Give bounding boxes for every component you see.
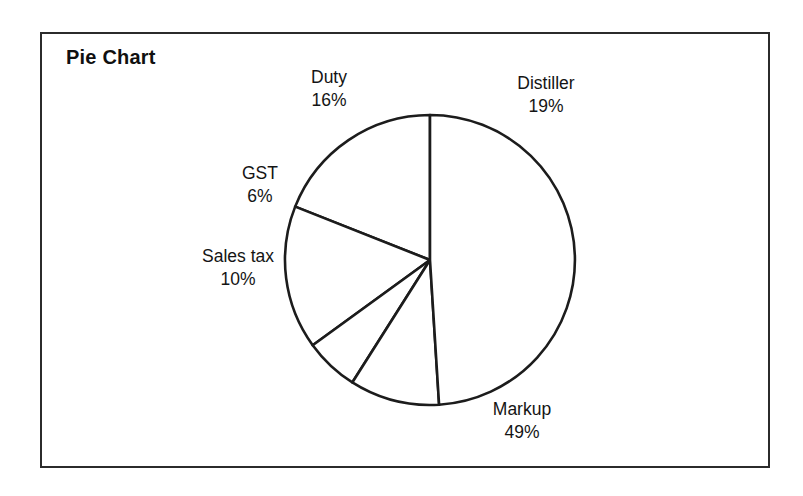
pie-label-duty: Duty 16% [286, 66, 372, 112]
pie-label-markup-name: Markup [460, 398, 584, 421]
pie-label-sales-tax-percent: 10% [176, 268, 300, 291]
pie-label-sales-tax-name: Sales tax [176, 245, 300, 268]
pie-label-distiller: Distiller 19% [486, 72, 606, 118]
pie-label-distiller-name: Distiller [486, 72, 606, 95]
screenshot-canvas: Pie Chart Distiller 19% Duty 16% GST 6% … [0, 0, 803, 496]
pie-slice-markup [430, 115, 575, 405]
pie-label-sales-tax: Sales tax 10% [176, 245, 300, 291]
pie-label-markup-percent: 49% [460, 421, 584, 444]
pie-label-duty-percent: 16% [286, 89, 372, 112]
pie-label-duty-name: Duty [286, 66, 372, 89]
pie-label-gst: GST 6% [222, 162, 298, 208]
pie-label-gst-name: GST [222, 162, 298, 185]
pie-label-distiller-percent: 19% [486, 95, 606, 118]
pie-chart-graphic [0, 0, 803, 496]
pie-label-markup: Markup 49% [460, 398, 584, 444]
pie-slice-group [285, 115, 575, 405]
pie-label-gst-percent: 6% [222, 185, 298, 208]
